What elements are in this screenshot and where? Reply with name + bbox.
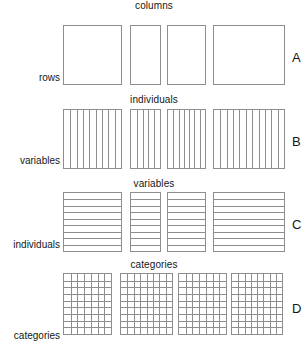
grid-layer (64, 193, 121, 251)
grid-line-vertical (271, 110, 272, 168)
grid-line-vertical (184, 110, 185, 168)
grid-line-horizontal (121, 287, 172, 288)
grid-line-vertical (89, 110, 90, 168)
diagram-row-c: variables individuals C (0, 166, 308, 256)
grid-line-vertical (173, 110, 174, 168)
grid-line-horizontal (64, 245, 121, 246)
grid-line-horizontal (168, 219, 205, 220)
matrix-panel (213, 25, 285, 85)
grid-line-horizontal (168, 225, 205, 226)
matrix-panel (167, 109, 206, 169)
matrix-panel (213, 109, 285, 169)
matrix-panel (120, 273, 173, 335)
grid-line-horizontal (64, 307, 111, 308)
grid-line-vertical (263, 274, 264, 334)
grid-line-vertical (166, 274, 167, 334)
grid-line-horizontal (64, 294, 111, 295)
grid-line-vertical (104, 274, 105, 334)
grid-layer (131, 193, 160, 251)
grid-line-horizontal (121, 314, 172, 315)
grid-line-horizontal (168, 238, 205, 239)
grid-line-vertical (147, 274, 148, 334)
grid-line-vertical (233, 110, 234, 168)
diagram-row-b: individuals variables B (0, 83, 308, 173)
grid-line-vertical (115, 110, 116, 168)
grid-line-horizontal (64, 232, 121, 233)
grid-line-horizontal (64, 281, 111, 282)
grid-layer (214, 110, 284, 168)
grid-line-vertical (159, 274, 160, 334)
grid-line-horizontal (214, 245, 284, 246)
grid-line-vertical (102, 110, 103, 168)
grid-line-vertical (83, 110, 84, 168)
row-a-panels (0, 0, 308, 90)
grid-line-horizontal (131, 225, 160, 226)
grid-line-vertical (278, 110, 279, 168)
grid-line-horizontal (121, 321, 172, 322)
matrix-panel (130, 192, 161, 252)
matrix-panel (63, 109, 122, 169)
grid-line-horizontal (64, 199, 121, 200)
grid-line-vertical (265, 110, 266, 168)
grid-line-vertical (238, 274, 239, 334)
grid-layer (131, 26, 160, 84)
matrix-panel (178, 273, 227, 335)
grid-layer (214, 193, 284, 251)
grid-line-vertical (206, 274, 207, 334)
grid-line-horizontal (131, 219, 160, 220)
grid-line-vertical (186, 274, 187, 334)
grid-line-horizontal (214, 206, 284, 207)
grid-line-vertical (213, 274, 214, 334)
grid-line-horizontal (131, 212, 160, 213)
matrix-panel (130, 25, 161, 85)
grid-line-horizontal (168, 212, 205, 213)
grid-line-horizontal (179, 314, 226, 315)
grid-line-horizontal (64, 238, 121, 239)
data-structure-diagram: columns rows A individuals variables B v… (0, 0, 308, 357)
grid-line-vertical (245, 274, 246, 334)
grid-line-horizontal (131, 245, 160, 246)
grid-line-vertical (140, 274, 141, 334)
row-c-panels (0, 166, 308, 256)
grid-line-horizontal (131, 199, 160, 200)
grid-line-vertical (153, 274, 154, 334)
grid-line-vertical (257, 274, 258, 334)
diagram-row-d: categories categories D (0, 248, 308, 357)
grid-line-horizontal (214, 199, 284, 200)
grid-line-horizontal (64, 287, 111, 288)
grid-line-vertical (220, 110, 221, 168)
grid-line-horizontal (179, 301, 226, 302)
grid-line-vertical (199, 274, 200, 334)
grid-line-horizontal (179, 294, 226, 295)
grid-line-vertical (77, 110, 78, 168)
grid-line-horizontal (64, 327, 111, 328)
matrix-panel (231, 273, 283, 335)
grid-line-vertical (134, 274, 135, 334)
grid-layer (168, 26, 205, 84)
grid-line-vertical (91, 274, 92, 334)
grid-line-vertical (77, 274, 78, 334)
grid-line-horizontal (131, 232, 160, 233)
diagram-row-a: columns rows A (0, 0, 308, 90)
grid-line-vertical (108, 110, 109, 168)
grid-line-vertical (179, 110, 180, 168)
grid-line-horizontal (179, 281, 226, 282)
grid-line-horizontal (168, 232, 205, 233)
grid-line-vertical (143, 110, 144, 168)
grid-line-horizontal (214, 219, 284, 220)
matrix-panel (167, 192, 206, 252)
grid-line-horizontal (179, 287, 226, 288)
grid-line-horizontal (214, 238, 284, 239)
grid-line-vertical (98, 274, 99, 334)
grid-line-horizontal (168, 245, 205, 246)
grid-line-vertical (252, 110, 253, 168)
grid-line-vertical (148, 110, 149, 168)
grid-line-vertical (96, 110, 97, 168)
grid-line-vertical (154, 110, 155, 168)
grid-line-horizontal (232, 321, 282, 322)
matrix-panel (213, 192, 285, 252)
matrix-panel (130, 109, 161, 169)
grid-line-vertical (137, 110, 138, 168)
grid-line-horizontal (214, 232, 284, 233)
grid-line-horizontal (179, 321, 226, 322)
